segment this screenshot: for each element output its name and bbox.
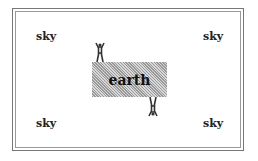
sky-label-top-right: sky [203, 30, 223, 43]
sky-label-top-left: sky [36, 30, 56, 43]
earth-block: earth [92, 62, 167, 97]
person-upright-icon [95, 42, 105, 62]
sky-label-bottom-right: sky [203, 117, 223, 130]
sky-label-bottom-left: sky [36, 117, 56, 130]
person-upside-down-icon [148, 97, 158, 117]
earth-label: earth [109, 72, 151, 88]
